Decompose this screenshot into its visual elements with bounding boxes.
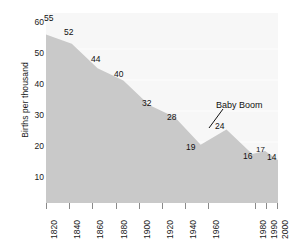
x-axis-ticks [46, 203, 278, 210]
data-label-1860: 44 [91, 55, 100, 64]
data-label-1900: 32 [142, 99, 151, 108]
y-axis-tick-labels: 60 50 40 30 20 10 [26, 0, 44, 251]
y-tick-50: 50 [28, 49, 44, 58]
x-tick-label-1880: 1880 [120, 220, 129, 239]
x-tick-mark-1980 [255, 203, 256, 209]
x-tick-label-1920: 1920 [166, 220, 175, 239]
x-tick-label-1980: 1980 [259, 220, 268, 239]
x-tick-mark-1860 [92, 203, 93, 209]
x-tick-mark-1940 [185, 203, 186, 209]
data-label-1880: 40 [114, 70, 123, 79]
x-tick-label-1840: 1840 [73, 220, 82, 239]
x-tick-label-1990: 1990 [270, 220, 279, 239]
data-label-1940: 19 [186, 143, 195, 152]
x-tick-label-2000: 2000 [281, 220, 290, 239]
x-tick-label-1860: 1860 [96, 220, 105, 239]
data-label-1980: 16 [243, 152, 252, 161]
data-label-1920: 28 [167, 113, 176, 122]
birth-rate-area-chart: Births per thousand 60 50 40 30 20 10 55… [0, 0, 293, 251]
x-tick-mark-2000 [277, 203, 278, 209]
x-axis-tick-labels: 1820 1840 1860 1880 1900 1920 1940 1960 … [46, 211, 278, 251]
x-tick-label-1820: 1820 [50, 220, 59, 239]
data-label-1990: 17 [256, 146, 265, 154]
y-tick-10: 10 [28, 173, 44, 182]
area-fill-polygon [46, 34, 278, 203]
x-tick-mark-1900 [139, 203, 140, 209]
x-tick-mark-1960 [208, 203, 209, 209]
annotation-leader-line [205, 108, 229, 130]
data-label-1820: 55 [44, 14, 53, 23]
x-tick-label-1900: 1900 [143, 220, 152, 239]
x-tick-mark-1840 [69, 203, 70, 209]
data-label-2000: 14 [267, 153, 276, 162]
x-tick-label-1940: 1940 [189, 220, 198, 239]
x-tick-mark-1920 [162, 203, 163, 209]
y-tick-60: 60 [28, 18, 44, 27]
y-tick-40: 40 [28, 80, 44, 89]
y-tick-20: 20 [28, 142, 44, 151]
data-label-1840: 52 [64, 28, 73, 37]
y-tick-30: 30 [28, 111, 44, 120]
x-tick-mark-1990 [266, 203, 267, 209]
x-tick-label-1960: 1960 [212, 220, 221, 239]
x-tick-mark-1820 [46, 203, 47, 209]
x-tick-mark-1880 [116, 203, 117, 209]
